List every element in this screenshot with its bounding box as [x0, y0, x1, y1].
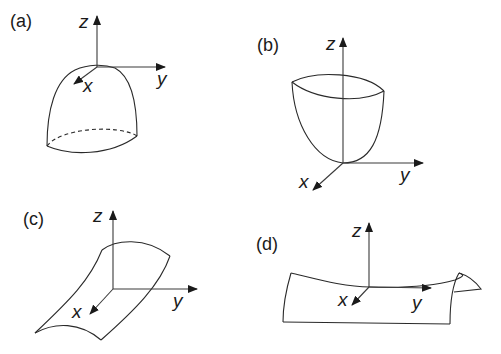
x-axis-label: x: [82, 75, 94, 96]
panel-d: (d) z y x: [256, 220, 481, 324]
sheet-right-edge: [101, 256, 170, 340]
sheet-top-edge: [291, 273, 463, 287]
y-axis-label: y: [410, 292, 423, 313]
panel-d-label: (d): [256, 234, 278, 254]
y-axis-label: y: [398, 164, 411, 185]
bowl-side: [292, 82, 384, 163]
panel-a: (a) z y x: [10, 11, 168, 153]
x-axis-label: x: [71, 301, 83, 322]
y-axis-label: y: [155, 68, 168, 89]
z-axis-label: z: [325, 33, 336, 54]
z-axis-label: z: [351, 220, 362, 241]
x-axis-arrow: [90, 289, 113, 314]
sheet-left-edge: [283, 273, 291, 322]
sheet-left-edge: [35, 250, 102, 333]
panel-c-label: (c): [23, 209, 44, 229]
sheet-bottom-edge: [283, 322, 450, 324]
panel-b: (b) z y x: [257, 33, 423, 192]
z-axis-label: z: [92, 205, 103, 226]
panel-a-label: (a): [10, 11, 32, 31]
bowl-rim-back: [292, 75, 384, 91]
x-axis-arrow: [313, 163, 343, 190]
y-axis-label: y: [171, 290, 184, 311]
y-axis-arrow: [369, 287, 431, 288]
bowl-rim-front: [292, 82, 384, 99]
panel-c: (c) z y x: [23, 205, 197, 340]
figure-canvas: (a) z y x (b) z y x (c) z y x: [0, 0, 501, 354]
x-axis-arrow: [352, 287, 369, 305]
sheet-bottom-edge: [35, 325, 101, 340]
dome-base-front: [47, 136, 137, 153]
sheet-top-edge: [102, 242, 170, 256]
x-axis-label: x: [298, 171, 310, 192]
x-axis-label: x: [337, 289, 349, 310]
z-axis-label: z: [78, 11, 89, 32]
panel-b-label: (b): [257, 35, 279, 55]
